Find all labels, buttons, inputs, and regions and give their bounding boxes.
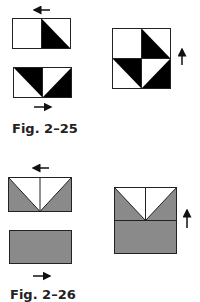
fig-2-26 <box>9 168 188 276</box>
assembled-block <box>115 188 177 254</box>
plain-rectangle <box>10 231 72 264</box>
figure-caption-2-25: Fig. 2–25 <box>12 121 78 136</box>
assembled-block <box>113 29 171 89</box>
bottom-unit <box>14 68 72 98</box>
top-unit <box>13 19 71 49</box>
flying-geese-unit <box>9 178 72 212</box>
fig-2-25 <box>13 10 183 107</box>
figure-caption-2-26: Fig. 2–26 <box>10 287 76 302</box>
